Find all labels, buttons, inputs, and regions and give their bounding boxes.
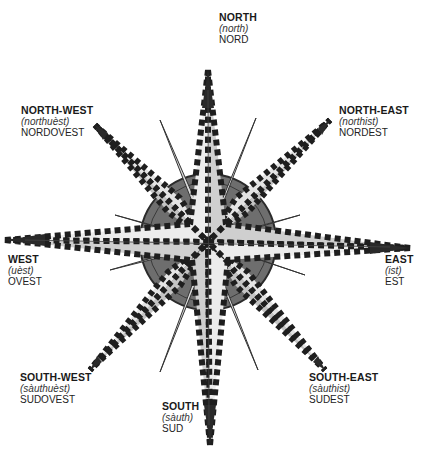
north-west-pronunciation: (northuèst) xyxy=(21,116,93,127)
label-north-west: NORTH-WEST (northuèst) NORDOVEST xyxy=(21,105,93,138)
label-east: EAST (ist) EST xyxy=(385,254,413,287)
west-label: WEST xyxy=(8,254,42,265)
south-west-pronunciation: (sàuthuèst) xyxy=(20,383,92,394)
south-label: SOUTH xyxy=(162,401,199,412)
south-west-label: SOUTH-WEST xyxy=(20,372,92,383)
label-south-east: SOUTH-EAST (sàuthist) SUDEST xyxy=(309,372,378,405)
south-italian: SUD xyxy=(162,423,199,434)
east-pronunciation: (ist) xyxy=(385,265,413,276)
south-east-italian: SUDEST xyxy=(309,394,378,405)
west-italian: OVEST xyxy=(8,276,42,287)
west-pronunciation: (uèst) xyxy=(8,265,42,276)
north-east-italian: NORDEST xyxy=(339,127,409,138)
north-east-label: NORTH-EAST xyxy=(339,105,409,116)
south-east-pronunciation: (sàuthist) xyxy=(309,383,378,394)
south-east-label: SOUTH-EAST xyxy=(309,372,378,383)
east-label: EAST xyxy=(385,254,413,265)
north-west-label: NORTH-WEST xyxy=(21,105,93,116)
label-west: WEST (uèst) OVEST xyxy=(8,254,42,287)
north-label: NORTH xyxy=(219,12,257,23)
north-west-italian: NORDOVEST xyxy=(21,127,93,138)
north-pronunciation: (north) xyxy=(219,23,257,34)
south-west-italian: SUDOVEST xyxy=(20,394,92,405)
south-pronunciation: (sàuth) xyxy=(162,412,199,423)
label-north: NORTH (north) NORD xyxy=(219,12,257,45)
label-north-east: NORTH-EAST (northist) NORDEST xyxy=(339,105,409,138)
label-south-west: SOUTH-WEST (sàuthuèst) SUDOVEST xyxy=(20,372,92,405)
east-italian: EST xyxy=(385,276,413,287)
north-east-pronunciation: (northist) xyxy=(339,116,409,127)
north-italian: NORD xyxy=(219,34,257,45)
label-south: SOUTH (sàuth) SUD xyxy=(162,401,199,434)
